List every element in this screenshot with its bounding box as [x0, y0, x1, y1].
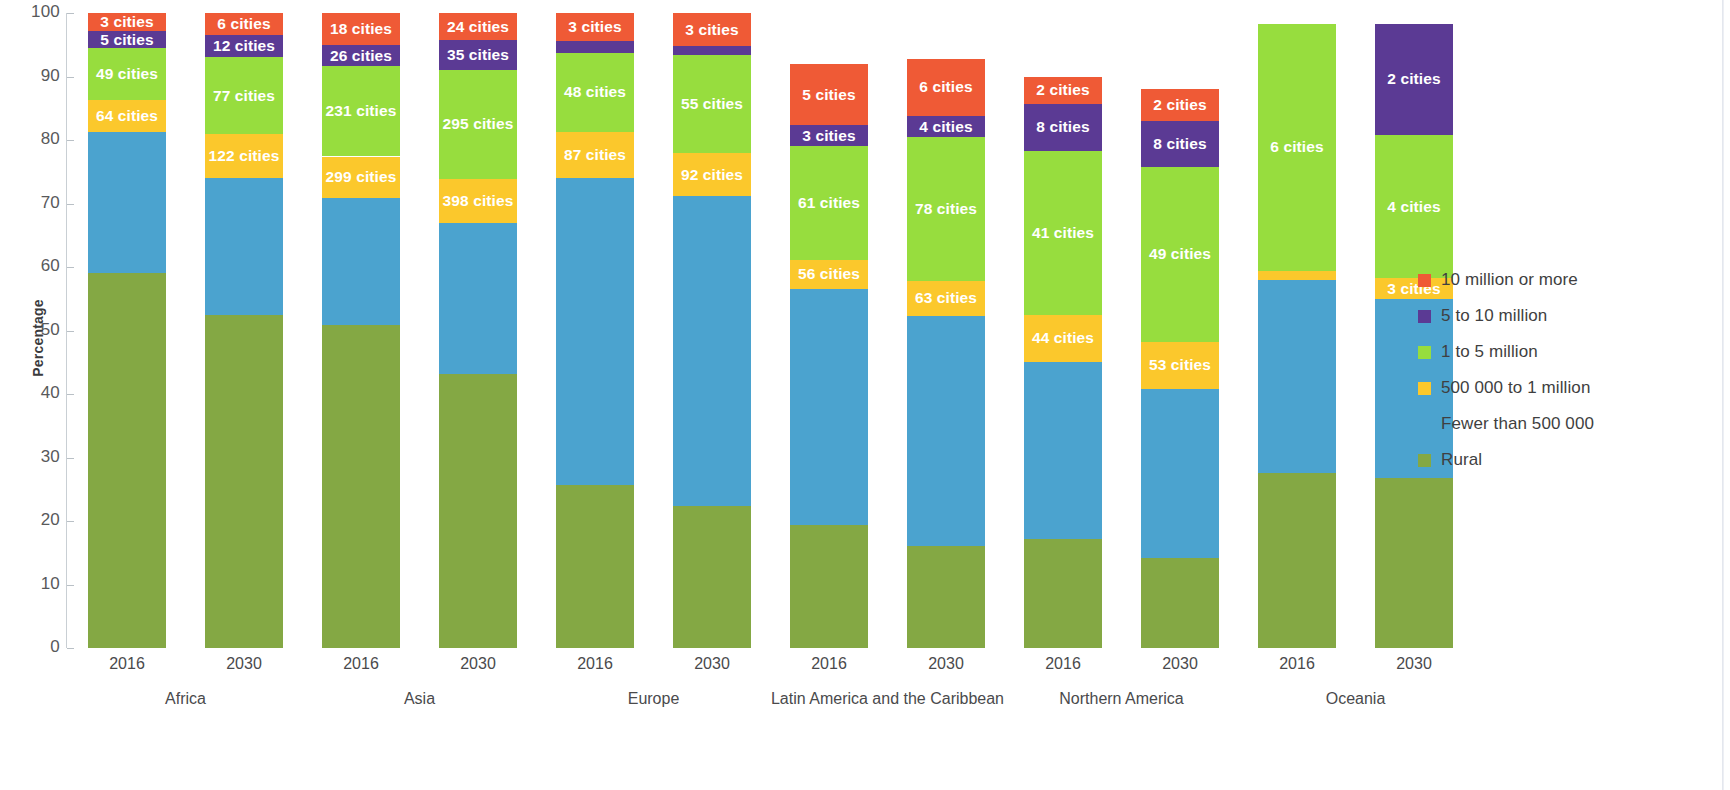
bar-segment[interactable]: 26 cities [322, 45, 400, 66]
bar-segment[interactable] [673, 196, 751, 507]
bar-segment[interactable] [205, 178, 283, 315]
bar-segment[interactable]: 4 cities [907, 116, 985, 138]
bar-segment[interactable]: 61 cities [790, 146, 868, 260]
stacked-bar[interactable]: 1 city6 cities [1258, 13, 1336, 648]
bar-segment[interactable] [556, 485, 634, 648]
bar-segment[interactable] [1258, 473, 1336, 648]
bar-segment[interactable] [88, 273, 166, 648]
stacked-bar[interactable]: 63 cities78 cities4 cities6 cities [907, 13, 985, 648]
y-axis-tick [67, 648, 74, 649]
bar-segment[interactable]: 49 cities [88, 48, 166, 100]
stacked-bar[interactable]: 92 cities55 cities2 cities3 cities [673, 13, 751, 648]
y-axis-tick-label: 60 [8, 256, 60, 276]
bar-segment[interactable] [1141, 558, 1219, 648]
bar-segment[interactable]: 35 cities [439, 40, 517, 70]
bar-segment[interactable]: 77 cities [205, 57, 283, 133]
x-axis-year-label: 2016 [1008, 655, 1118, 673]
bar-segment[interactable] [1141, 389, 1219, 558]
bar-segment[interactable] [439, 374, 517, 648]
bar-segment[interactable]: 6 cities [907, 59, 985, 116]
legend-label: Fewer than 500 000 [1441, 414, 1594, 434]
bar-segment[interactable]: 64 cities [88, 100, 166, 132]
stacked-bar[interactable]: 44 cities41 cities8 cities2 cities [1024, 13, 1102, 648]
x-axis-year-label: 2016 [1242, 655, 1352, 673]
bar-segment[interactable]: 299 cities [322, 157, 400, 198]
stacked-bar[interactable]: 122 cities77 cities12 cities6 cities [205, 13, 283, 648]
bar-segment[interactable]: 56 cities [790, 260, 868, 289]
bar-segment[interactable] [790, 289, 868, 526]
bar-segment[interactable]: 18 cities [322, 13, 400, 45]
bar-segment[interactable]: 55 cities [673, 55, 751, 153]
bar-segment[interactable]: 49 cities [1141, 167, 1219, 342]
bar-segment[interactable]: 2 cities [1141, 89, 1219, 121]
bar-segment[interactable] [322, 198, 400, 326]
chart-root: Percentage 0102030405060708090100 64 cit… [0, 0, 1730, 790]
bar-segment[interactable]: 78 cities [907, 137, 985, 281]
stacked-bar[interactable]: 299 cities231 cities26 cities18 cities [322, 13, 400, 648]
bar-segment[interactable]: 1 city [1258, 271, 1336, 281]
bar-segment[interactable] [673, 506, 751, 648]
bar-segment[interactable]: 6 cities [1258, 24, 1336, 271]
bar-segment[interactable]: 87 cities [556, 132, 634, 178]
bar-segment[interactable]: 8 cities [1024, 104, 1102, 151]
x-axis-year-label: 2016 [306, 655, 416, 673]
bar-segment[interactable]: 53 cities [1141, 342, 1219, 389]
bar-segment[interactable] [907, 316, 985, 547]
legend-item[interactable]: 500 000 to 1 million [1418, 370, 1718, 406]
bar-segment[interactable]: 8 cities [1141, 121, 1219, 167]
bar-segment[interactable]: 295 cities [439, 70, 517, 179]
bar-segment[interactable]: 3 cities [556, 41, 634, 53]
bar-segment[interactable] [322, 325, 400, 648]
bar-segment[interactable]: 12 cities [205, 35, 283, 57]
bar-segment[interactable] [88, 132, 166, 274]
bar-segment[interactable]: 48 cities [556, 53, 634, 132]
legend-label: 5 to 10 million [1441, 306, 1547, 326]
bar-segment[interactable]: 44 cities [1024, 315, 1102, 361]
bar-segment[interactable]: 122 cities [205, 134, 283, 178]
bar-segment[interactable]: 63 cities [907, 281, 985, 316]
bar-segment[interactable]: 2 cities [673, 46, 751, 55]
x-axis-year-label: 2016 [774, 655, 884, 673]
bar-segment[interactable]: 398 cities [439, 179, 517, 223]
bar-segment[interactable] [1024, 362, 1102, 540]
stacked-bar[interactable]: 56 cities61 cities3 cities5 cities [790, 13, 868, 648]
bar-segment[interactable]: 5 cities [88, 31, 166, 48]
legend-swatch-icon [1418, 310, 1431, 323]
bar-segment[interactable]: 41 cities [1024, 151, 1102, 315]
bar-segment[interactable] [439, 223, 517, 374]
bar-segment[interactable]: 3 cities [790, 125, 868, 145]
bar-segment[interactable]: 5 cities [790, 64, 868, 126]
bar-segment[interactable]: 6 cities [205, 13, 283, 35]
bar-segment[interactable]: 3 cities [88, 13, 166, 31]
y-axis-tick-label: 20 [8, 510, 60, 530]
stacked-bar[interactable]: 87 cities48 cities3 cities3 cities [556, 13, 634, 648]
stacked-bar[interactable]: 398 cities295 cities35 cities24 cities [439, 13, 517, 648]
legend-label: 1 to 5 million [1441, 342, 1538, 362]
bar-segment[interactable] [205, 315, 283, 648]
legend-item[interactable]: Fewer than 500 000 [1418, 406, 1718, 442]
legend-item[interactable]: 10 million or more [1418, 262, 1718, 298]
bar-segment[interactable] [1024, 539, 1102, 648]
page-edge-rule [1722, 0, 1724, 790]
bar-segment[interactable]: 3 cities [673, 13, 751, 46]
legend-item[interactable]: 1 to 5 million [1418, 334, 1718, 370]
stacked-bar[interactable]: 64 cities49 cities5 cities3 cities [88, 13, 166, 648]
bar-segment[interactable]: 24 cities [439, 13, 517, 40]
legend-item[interactable]: Rural [1418, 442, 1718, 478]
bar-segment[interactable]: 2 cities [1024, 77, 1102, 104]
bar-segment[interactable]: 231 cities [322, 66, 400, 156]
stacked-bar[interactable]: 53 cities49 cities8 cities2 cities [1141, 13, 1219, 648]
bar-segment[interactable]: 92 cities [673, 153, 751, 196]
plot-area: Percentage 0102030405060708090100 64 cit… [0, 0, 1395, 720]
bar-segment[interactable] [907, 546, 985, 648]
legend-label: 10 million or more [1441, 270, 1578, 290]
legend-item[interactable]: 5 to 10 million [1418, 298, 1718, 334]
bar-segment[interactable] [790, 525, 868, 648]
bar-segment[interactable] [556, 178, 634, 485]
bar-segment[interactable]: 2 cities [1375, 24, 1453, 135]
y-axis-tick [67, 521, 74, 522]
bar-segment[interactable]: 4 cities [1375, 135, 1453, 279]
bar-segment[interactable] [1375, 478, 1453, 648]
bar-segment[interactable] [1258, 280, 1336, 473]
bar-segment[interactable]: 3 cities [556, 13, 634, 41]
